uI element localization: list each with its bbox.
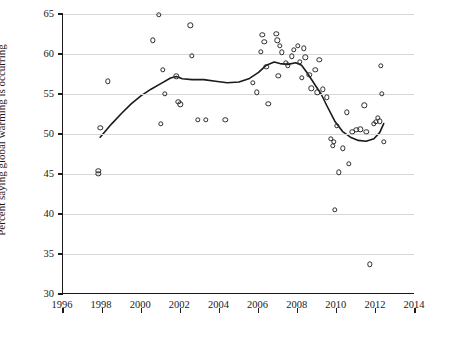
- gridline: [63, 134, 414, 135]
- y-tick-mark: [58, 293, 63, 294]
- x-tick-label: 2010: [325, 300, 346, 311]
- gridline: [63, 94, 414, 95]
- x-tick-label: 2012: [364, 300, 385, 311]
- x-tick-label: 2014: [404, 300, 425, 311]
- y-tick-label: 60: [14, 49, 54, 60]
- x-tick-label: 2000: [130, 300, 151, 311]
- gridline: [63, 254, 414, 255]
- y-axis-label: Percent saying global warming is occurri…: [0, 0, 8, 280]
- gridline: [63, 54, 414, 55]
- x-tick-label: 2008: [286, 300, 307, 311]
- gridline: [63, 214, 414, 215]
- y-tick-mark: [58, 213, 63, 214]
- scatter-chart: Percent saying global warming is occurri…: [0, 0, 453, 338]
- gridline: [63, 14, 414, 15]
- y-tick-mark: [58, 13, 63, 14]
- y-tick-mark: [58, 173, 63, 174]
- y-tick-label: 55: [14, 89, 54, 100]
- y-tick-label: 50: [14, 129, 54, 140]
- y-tick-mark: [58, 93, 63, 94]
- plot-area: [62, 14, 414, 294]
- y-tick-mark: [58, 133, 63, 134]
- y-tick-mark: [58, 253, 63, 254]
- y-tick-label: 30: [14, 289, 54, 300]
- y-tick-mark: [58, 53, 63, 54]
- y-tick-label: 40: [14, 209, 54, 220]
- y-tick-label: 65: [14, 9, 54, 20]
- x-tick-label: 2002: [169, 300, 190, 311]
- y-tick-label: 45: [14, 169, 54, 180]
- x-tick-label: 1996: [52, 300, 73, 311]
- x-tick-label: 2004: [208, 300, 229, 311]
- x-tick-label: 1998: [91, 300, 112, 311]
- trend-line-path: [100, 62, 384, 141]
- trend-line: [63, 14, 415, 294]
- y-tick-label: 35: [14, 249, 54, 260]
- x-tick-label: 2006: [247, 300, 268, 311]
- gridline: [63, 174, 414, 175]
